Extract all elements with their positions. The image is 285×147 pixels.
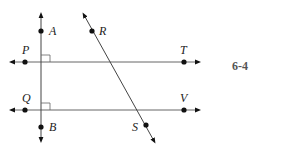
- point-r: [89, 28, 94, 33]
- label-t: T: [180, 43, 188, 57]
- right-angle-mark-top: [41, 55, 50, 62]
- point-s: [143, 122, 148, 127]
- label-q: Q: [22, 91, 31, 105]
- label-v: V: [180, 91, 189, 105]
- point-v: [181, 107, 186, 112]
- point-t: [181, 59, 186, 64]
- point-p: [22, 59, 27, 64]
- label-a: A: [48, 24, 57, 38]
- right-angle-mark-bottom: [41, 103, 50, 110]
- label-r: R: [98, 24, 107, 38]
- line-rs: [84, 15, 154, 141]
- label-s: S: [132, 120, 138, 134]
- point-a: [38, 28, 43, 33]
- label-b: B: [49, 120, 57, 134]
- point-b: [38, 124, 43, 129]
- figure-label: 6-4: [232, 59, 248, 73]
- point-q: [22, 107, 27, 112]
- label-p: P: [21, 43, 30, 57]
- geometry-diagram: A R P T Q V B S 6-4: [0, 0, 285, 147]
